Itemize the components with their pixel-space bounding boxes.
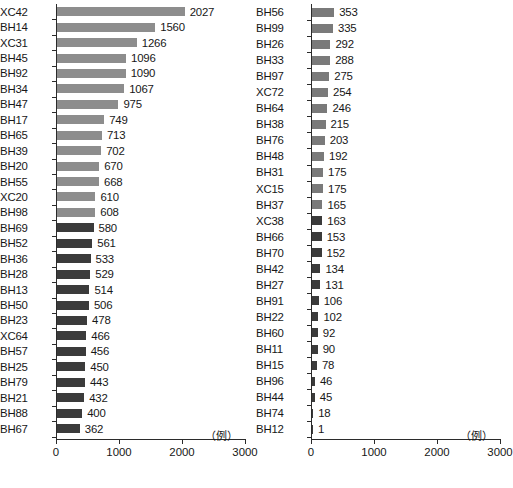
x-tick [311,439,312,444]
bar-container: 165 [312,197,498,213]
y-tick [52,421,56,422]
x-tick [182,439,183,444]
bar [57,223,94,232]
bar-row: BH39702 [0,143,250,158]
bar [57,54,126,63]
bar [312,328,318,337]
bar-container: 292 [312,36,498,52]
category-label: XC20 [0,191,48,203]
bar-container: 610 [57,189,248,204]
x-tick-label: 0 [53,446,59,458]
category-label: BH92 [0,67,48,79]
value-label: 254 [333,86,351,98]
bar [57,38,137,47]
bar-row: XC38163 [250,213,500,229]
chart-panel-right: BH56353BH99335BH26292BH33288BH97275XC722… [250,0,500,470]
bar-container: 152 [312,245,498,261]
category-label: BH34 [0,83,48,95]
x-tick [374,439,375,444]
category-label: BH28 [0,268,48,280]
bar [312,232,322,241]
value-label: 175 [328,183,346,195]
bar-row: BH7418 [250,405,500,421]
bar [57,69,126,78]
y-tick [52,19,56,20]
category-label: BH50 [0,299,48,311]
value-label: 533 [96,253,114,265]
y-tick [52,97,56,98]
bar [57,270,90,279]
y-tick [52,189,56,190]
bar [57,115,104,124]
bar-row: BH21432 [0,390,250,405]
y-tick [52,112,56,113]
bar [57,424,80,433]
value-label: 713 [107,129,125,141]
category-label: BH44 [256,391,304,403]
value-label: 203 [330,134,348,146]
category-label: XC31 [0,37,48,49]
bar [57,409,82,418]
bar-container: 1067 [57,81,248,96]
x-tick-label: 1000 [361,446,386,458]
bar-container: 670 [57,158,248,173]
x-tick [245,439,246,444]
y-tick [52,298,56,299]
y-tick [307,373,311,374]
value-label: 506 [94,299,112,311]
category-label: BH74 [256,407,304,419]
value-label: 102 [323,311,341,323]
bar [57,347,86,356]
bar-container: 561 [57,236,248,251]
bar [57,131,102,140]
bar-row: BH36533 [0,251,250,266]
category-label: BH22 [256,311,304,323]
bar [312,345,318,354]
category-label: BH99 [256,22,304,34]
bar-row: XC422027 [0,4,250,19]
bar-row: BH22102 [250,309,500,325]
bar-row: BH1578 [250,357,500,373]
bar [57,362,85,371]
y-tick [307,181,311,182]
bar-container: 1096 [57,50,248,65]
y-tick [307,229,311,230]
bar-row: BH65713 [0,128,250,143]
y-tick [307,197,311,198]
bar-container: 1560 [57,19,248,34]
category-label: BH42 [256,263,304,275]
bar-container: 192 [312,148,498,164]
bar-row: BH25450 [0,359,250,374]
bar-row: BH98608 [0,205,250,220]
bar [312,120,326,129]
bar [312,152,324,161]
bar [57,393,84,402]
bar-container: 175 [312,181,498,197]
value-label: 432 [89,392,107,404]
y-tick [52,220,56,221]
value-label: 610 [100,191,118,203]
y-tick [52,282,56,283]
bar [57,177,99,186]
bar-container: 400 [57,405,248,420]
bar [312,216,322,225]
value-label: 152 [327,247,345,259]
bar-row: BH42134 [250,261,500,277]
y-tick [52,390,56,391]
bar-row: XC72254 [250,84,500,100]
bar-row: BH56353 [250,4,500,20]
bar-container: 46 [312,373,498,389]
bar-container: 608 [57,205,248,220]
category-label: BH88 [0,407,48,419]
bar [312,200,322,209]
y-tick [307,52,311,53]
value-label: 561 [97,237,115,249]
bar [57,208,95,217]
y-tick [52,128,56,129]
y-tick [307,389,311,390]
bar-row: BH13514 [0,282,250,297]
category-label: BH13 [0,284,48,296]
value-label: 450 [90,361,108,373]
bar-row: XC311266 [0,35,250,50]
category-label: BH15 [256,359,304,371]
